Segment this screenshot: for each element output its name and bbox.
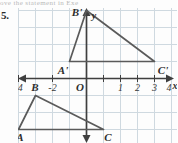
coordinate-plane: -4 -2 1 2 3 4 O x y A' B' C' A B C [18,8,177,143]
x-tick-label-4: 4 [167,82,172,93]
vertex-label-c-prime: C' [158,64,168,76]
triangle-a-prime-b-prime-c-prime [70,11,155,62]
coordinate-plane-svg: -4 -2 1 2 3 4 O x y A' B' C' A B C [18,8,177,143]
x-tick-label-2: 2 [135,82,140,93]
grid-lines [18,8,177,143]
cut-off-header-text: ove the statement in Exe [0,0,177,7]
vertex-label-a-prime: A' [57,64,68,76]
y-axis-label: y [91,10,97,21]
vertex-label-b: B [30,81,38,93]
x-tick-label-neg2: -2 [48,82,56,93]
exercise-number: 5. [1,9,9,21]
x-tick-label-1: 1 [118,82,123,93]
vertex-label-a: A [18,131,24,143]
x-tick-label-3: 3 [151,82,157,93]
vertex-label-c: C [104,131,112,143]
axes [22,13,170,139]
y-axis-down-arrow [83,135,91,143]
vertex-label-b-prime: B' [71,8,82,18]
x-axis-label: x [172,80,178,91]
axis-arrowheads [18,8,174,143]
origin-label: O [76,81,84,93]
x-tick-label-neg4: -4 [18,82,23,93]
figure-container: ove the statement in Exe 5. [0,0,177,143]
